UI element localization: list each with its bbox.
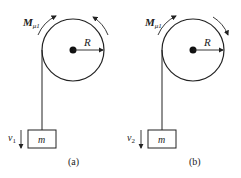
caption-b: (b) <box>189 156 201 168</box>
rotation-arc-right-icon <box>213 17 228 35</box>
moment-label: Mμ1 <box>22 16 40 30</box>
velocity-label: v1 <box>8 132 16 145</box>
radius-label: R <box>203 36 211 48</box>
moment-label: Mμ1 <box>144 16 162 30</box>
panel-a: R Mμ1 m v1 (a) <box>8 16 108 168</box>
mass-label: m <box>38 134 45 145</box>
rotation-arc-right-icon <box>93 17 108 35</box>
panel-b: R Mμ1 m v2 (b) <box>127 16 228 168</box>
caption-a: (a) <box>68 156 79 168</box>
mass-label: m <box>158 134 165 145</box>
radius-label: R <box>83 36 91 48</box>
velocity-label: v2 <box>127 132 135 145</box>
pulley-diagram: R Mμ1 m v1 (a) R Mμ1 m v2 (b) <box>0 0 241 178</box>
